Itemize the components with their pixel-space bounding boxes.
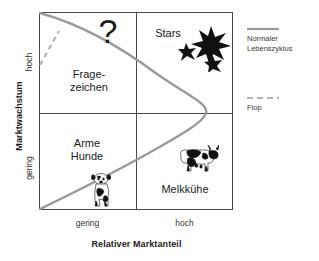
bcg-matrix-diagram: Marktwachstum hoch gering gering hoch Re… xyxy=(0,0,319,261)
legend-item-flop: Flop xyxy=(247,95,317,113)
flop-curve xyxy=(40,31,59,65)
y-axis-tick-high: hoch xyxy=(24,40,34,84)
legend-label-normal-lifecycle: Normaler Lebenszyklus xyxy=(247,34,317,53)
x-axis-title: Relativer Marktanteil xyxy=(39,239,234,249)
stars-icon xyxy=(178,22,232,72)
quadrant-label-question-marks: Frage- zeichen xyxy=(47,68,131,94)
legend-item-normal-lifecycle: Normaler Lebenszyklus xyxy=(247,26,317,53)
y-axis-tick-low: gering xyxy=(24,143,34,193)
quadrant-label-cash-cows: Melkkühe xyxy=(145,183,225,196)
question-mark-symbol: ? xyxy=(90,12,126,50)
legend-label-flop: Flop xyxy=(247,103,317,113)
x-axis-tick-low: gering xyxy=(39,218,136,228)
legend-dashed-line-icon xyxy=(247,95,279,101)
legend-solid-line-icon xyxy=(247,26,279,32)
x-axis-tick-high: hoch xyxy=(136,218,233,228)
cow-icon xyxy=(175,144,219,177)
quadrant-label-poor-dogs: Arme Hunde xyxy=(45,137,129,163)
y-axis-title: Marktwachstum xyxy=(14,56,24,176)
dog-icon xyxy=(88,172,118,208)
